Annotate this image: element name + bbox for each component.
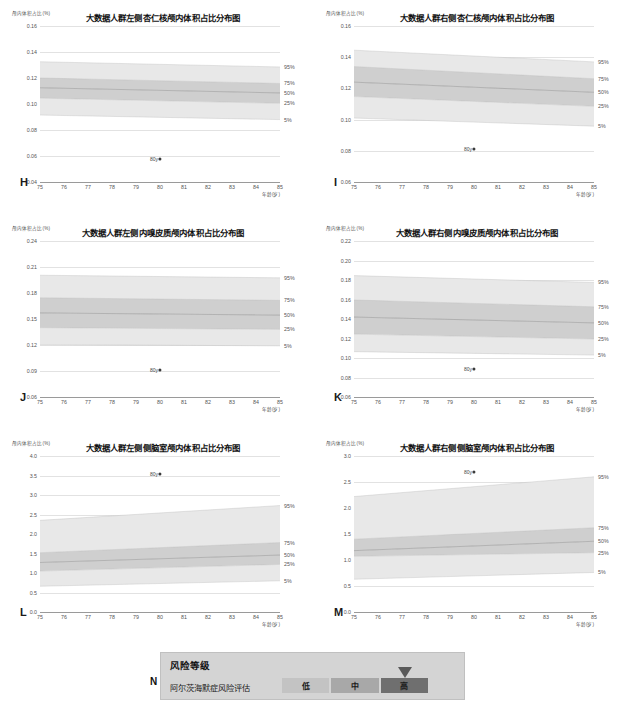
plot-area: 0.00.51.01.52.02.53.03.54.095%75%50%25%5…	[40, 456, 280, 612]
x-tick-label: 81	[495, 614, 501, 620]
band-50%-25%	[40, 313, 280, 329]
y-tick-label: 0.12	[27, 342, 37, 348]
plot-area: 0.040.060.080.100.120.140.1695%75%50%25%…	[40, 26, 280, 182]
percentile-label-95%: 95%	[284, 64, 295, 70]
x-tick-label: 76	[375, 184, 381, 190]
x-tick-label: 76	[61, 399, 67, 405]
plot-inner: 0.060.080.100.120.140.1695%75%50%25%5%80…	[354, 26, 594, 182]
y-tick-label: 0.14	[341, 54, 351, 60]
x-tick-label: 85	[277, 399, 283, 405]
percentile-label-50%: 50%	[284, 90, 295, 96]
percentile-label-25%: 25%	[284, 561, 295, 567]
band-25%-5%	[354, 553, 594, 580]
x-tick-label: 76	[61, 614, 67, 620]
x-tick-label: 79	[133, 184, 139, 190]
x-axis-line	[40, 397, 280, 398]
risk-assessment-row: 阿尔茨海默症风险评估 低 中 高	[170, 678, 446, 695]
panel-letter-h: H	[20, 176, 28, 188]
x-tick-label: 78	[109, 399, 115, 405]
y-tick-label: 0.08	[341, 375, 351, 381]
y-tick-label: 0.20	[341, 258, 351, 264]
x-axis-label: 年龄(岁)	[576, 406, 594, 412]
percentile-label-25%: 25%	[284, 100, 295, 106]
y-tick-label: 0.12	[341, 336, 351, 342]
panel-letter-n: N	[150, 676, 157, 687]
y-tick-label: 0.24	[27, 238, 37, 244]
percentile-label-75%: 75%	[598, 76, 609, 82]
y-tick-label: 0.10	[341, 117, 351, 123]
x-tick-label: 78	[109, 184, 115, 190]
x-tick-label: 75	[351, 614, 357, 620]
percentile-label-50%: 50%	[598, 89, 609, 95]
percentile-label-75%: 75%	[284, 80, 295, 86]
x-tick-label: 78	[109, 614, 115, 620]
risk-panel-header: 风险等级	[170, 658, 210, 672]
chart-title: 大数据人群左侧侧脑室颅内体积占比分布图	[6, 441, 320, 453]
x-tick-label: 78	[423, 399, 429, 405]
percentile-bands	[354, 26, 594, 182]
x-tick-label: 83	[543, 614, 549, 620]
risk-level-marker	[398, 667, 412, 678]
y-tick-label: 0.06	[27, 153, 37, 159]
y-tick-label: 0.21	[27, 264, 37, 270]
band-25%-5%	[40, 328, 280, 346]
percentile-label-50%: 50%	[598, 538, 609, 544]
risk-segment-low[interactable]: 低	[282, 678, 329, 693]
x-tick-label: 77	[399, 614, 405, 620]
x-tick-label: 79	[133, 399, 139, 405]
x-tick-label: 84	[253, 184, 259, 190]
x-tick-label: 81	[181, 184, 187, 190]
y-tick-label: 0.14	[341, 316, 351, 322]
x-tick-label: 83	[229, 184, 235, 190]
y-tick-label: 0.18	[27, 290, 37, 296]
y-tick-label: 0.0	[30, 609, 37, 615]
x-tick-label: 79	[447, 184, 453, 190]
patient-point-label: 80y	[150, 471, 158, 477]
x-tick-label: 76	[61, 184, 67, 190]
panel-letter-m: M	[334, 606, 343, 618]
panel-letter-j: J	[20, 391, 26, 403]
x-tick-label: 81	[495, 184, 501, 190]
plot-area: 0.060.080.100.120.140.1695%75%50%25%5%80…	[354, 26, 594, 182]
risk-segment-mid[interactable]: 中	[331, 678, 378, 693]
x-tick-label: 80	[157, 184, 163, 190]
percentile-label-95%: 95%	[284, 275, 295, 281]
plot-inner: 0.060.090.120.150.180.210.2495%75%50%25%…	[40, 241, 280, 397]
y-tick-label: 0.06	[341, 394, 351, 400]
y-tick-label: 0.08	[27, 127, 37, 133]
y-tick-label: 0.15	[27, 316, 37, 322]
plot-area: 0.060.080.100.120.140.160.180.200.2295%7…	[354, 241, 594, 397]
x-tick-label: 83	[543, 399, 549, 405]
report-page: 颅内体积占比(%)大数据人群左侧杏仁核颅内体积占比分布图0.040.060.08…	[0, 0, 629, 712]
x-axis-line	[40, 182, 280, 183]
risk-level-bar[interactable]: 低 中 高	[282, 678, 430, 693]
x-tick-label: 77	[85, 614, 91, 620]
y-tick-label: 3.5	[30, 473, 37, 479]
y-tick-label: 0.10	[27, 101, 37, 107]
risk-segment-high[interactable]: 高	[381, 678, 428, 693]
percentile-label-75%: 75%	[284, 540, 295, 546]
x-axis-label: 年龄(岁)	[262, 621, 280, 627]
percentile-label-5%: 5%	[284, 117, 292, 123]
plot-area: 0.060.090.120.150.180.210.2495%75%50%25%…	[40, 241, 280, 397]
x-tick-label: 85	[591, 399, 597, 405]
x-tick-label: 78	[423, 614, 429, 620]
percentile-bands	[40, 241, 280, 397]
x-tick-label: 84	[567, 399, 573, 405]
y-tick-label: 0.09	[27, 368, 37, 374]
y-tick-label: 3.0	[344, 453, 351, 459]
panel-letter-i: I	[334, 176, 337, 188]
x-tick-label: 78	[423, 184, 429, 190]
plot-inner: 0.00.51.01.52.02.53.095%75%50%25%5%80y	[354, 456, 594, 612]
risk-level-panel: 风险等级 阿尔茨海默症风险评估 低 中 高	[160, 652, 465, 700]
x-tick-label: 82	[205, 399, 211, 405]
y-tick-label: 1.0	[344, 557, 351, 563]
patient-point-label: 80y	[464, 146, 472, 152]
plot-inner: 0.040.060.080.100.120.140.1695%75%50%25%…	[40, 26, 280, 182]
percentile-label-95%: 95%	[598, 474, 609, 480]
y-tick-label: 0.12	[341, 85, 351, 91]
x-tick-label: 82	[519, 614, 525, 620]
x-tick-label: 79	[133, 614, 139, 620]
x-tick-label: 75	[351, 184, 357, 190]
x-tick-label: 80	[471, 399, 477, 405]
